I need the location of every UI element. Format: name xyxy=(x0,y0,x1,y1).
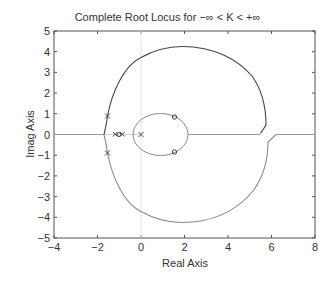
y-tick-label: 3 xyxy=(44,66,50,78)
upper-locus-branch xyxy=(104,47,266,135)
lower-locus-branch xyxy=(104,135,276,223)
axis-ticks: −4−202468543210−1−2−3−4−5 xyxy=(37,25,318,253)
x-tick-label: 0 xyxy=(138,241,144,253)
y-tick-label: −1 xyxy=(37,149,50,161)
y-tick-label: −3 xyxy=(37,191,50,203)
x-tick-label: 8 xyxy=(312,241,318,253)
x-tick-label: 6 xyxy=(268,241,274,253)
y-tick-label: −4 xyxy=(37,211,50,223)
y-tick-label: 0 xyxy=(44,129,50,141)
y-tick-label: −2 xyxy=(37,170,50,182)
y-tick-label: −5 xyxy=(37,232,50,244)
x-tick-label: 2 xyxy=(181,241,187,253)
root-locus-plot: −4−202468543210−1−2−3−4−5 xyxy=(0,0,335,282)
y-tick-label: 5 xyxy=(44,25,50,37)
x-tick-label: 4 xyxy=(225,241,231,253)
x-tick-label: −2 xyxy=(91,241,104,253)
y-tick-label: 4 xyxy=(44,46,50,58)
y-tick-label: 2 xyxy=(44,87,50,99)
y-tick-label: 1 xyxy=(44,108,50,120)
